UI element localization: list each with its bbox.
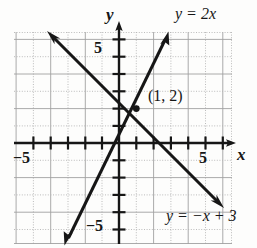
y-tick-label-minus-5: −5 [86,218,103,234]
y-tick-label-5: 5 [94,40,102,56]
graph-figure: y x y = 2x y = −x + 3 (1, 2) 5 −5 5 −5 [0,0,257,248]
x-tick-label-minus-5: −5 [13,150,30,166]
y-axis-label: y [106,6,114,23]
x-axis [14,139,236,147]
line-y-equals-neg-x-plus-3 [47,31,224,208]
x-tick-label-5: 5 [199,150,207,166]
line-label-y-equals-neg-x-plus-3: y = −x + 3 [166,208,237,224]
line-label-y-equals-2x: y = 2x [175,6,216,22]
intersection-point-marker [133,105,140,112]
intersection-point-label: (1, 2) [148,88,183,104]
x-axis-label: x [237,146,246,163]
